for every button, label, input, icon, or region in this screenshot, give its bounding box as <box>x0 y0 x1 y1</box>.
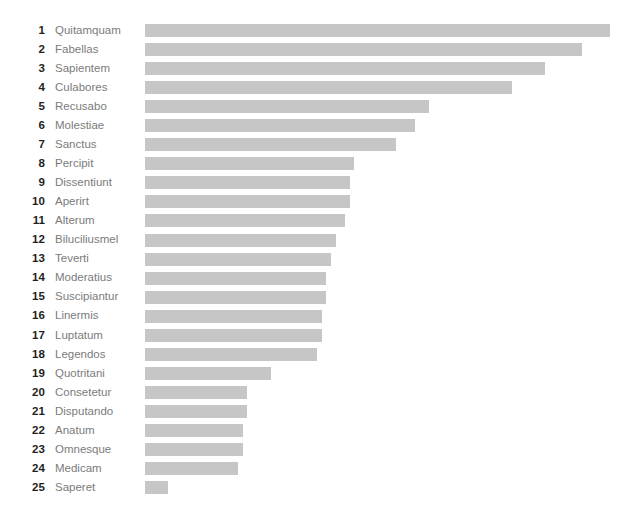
row-rank: 1 <box>0 25 45 37</box>
row-bar <box>145 176 350 189</box>
row-rank: 13 <box>0 253 45 265</box>
bar-chart-rows: 1Quitamquam2Fabellas3Sapientem4Culabores… <box>0 21 628 497</box>
row-category-label: Culabores <box>55 82 145 94</box>
row-bar-track <box>145 459 628 478</box>
row-bar <box>145 424 243 437</box>
bar-chart-row: 25Saperet <box>0 478 628 497</box>
row-rank: 4 <box>0 82 45 94</box>
row-rank: 5 <box>0 101 45 113</box>
bar-chart-row: 20Consetetur <box>0 383 628 402</box>
row-category-label: Luptatum <box>55 330 145 342</box>
row-rank: 9 <box>0 177 45 189</box>
row-bar <box>145 81 512 94</box>
row-rank: 22 <box>0 425 45 437</box>
row-rank: 19 <box>0 368 45 380</box>
row-bar <box>145 195 350 208</box>
row-bar-track <box>145 192 628 211</box>
row-bar <box>145 443 243 456</box>
bar-chart-row: 24Medicam <box>0 459 628 478</box>
row-bar <box>145 272 326 285</box>
row-bar-track <box>145 78 628 97</box>
row-bar <box>145 24 610 37</box>
row-bar-track <box>145 288 628 307</box>
row-bar <box>145 405 247 418</box>
row-rank: 10 <box>0 196 45 208</box>
row-category-label: Omnesque <box>55 444 145 456</box>
row-rank: 21 <box>0 406 45 418</box>
row-bar-track <box>145 231 628 250</box>
row-category-label: Anatum <box>55 425 145 437</box>
row-rank: 24 <box>0 463 45 475</box>
bar-chart-row: 11Alterum <box>0 211 628 230</box>
row-rank: 2 <box>0 44 45 56</box>
row-bar-track <box>145 21 628 40</box>
row-bar-track <box>145 345 628 364</box>
row-bar-track <box>145 402 628 421</box>
bar-chart-row: 15Suscipiantur <box>0 288 628 307</box>
bar-chart-row: 19Quotritani <box>0 364 628 383</box>
row-category-label: Medicam <box>55 463 145 475</box>
row-rank: 23 <box>0 444 45 456</box>
row-category-label: Sapientem <box>55 63 145 75</box>
row-bar-track <box>145 440 628 459</box>
row-category-label: Consetetur <box>55 387 145 399</box>
row-rank: 8 <box>0 158 45 170</box>
bar-chart-row: 16Linermis <box>0 307 628 326</box>
row-bar <box>145 100 429 113</box>
row-category-label: Sanctus <box>55 139 145 151</box>
row-bar <box>145 386 247 399</box>
row-rank: 20 <box>0 387 45 399</box>
row-bar-track <box>145 135 628 154</box>
row-bar <box>145 253 331 266</box>
bar-chart-row: 21Disputando <box>0 402 628 421</box>
row-bar-track <box>145 59 628 78</box>
bar-chart-row: 10Aperirt <box>0 192 628 211</box>
row-bar-track <box>145 421 628 440</box>
row-bar <box>145 329 322 342</box>
bar-chart-row: 5Recusabo <box>0 97 628 116</box>
bar-chart-row: 2Fabellas <box>0 40 628 59</box>
row-rank: 17 <box>0 330 45 342</box>
bar-chart-row: 12Biluciliusmel <box>0 231 628 250</box>
row-rank: 6 <box>0 120 45 132</box>
row-bar-track <box>145 97 628 116</box>
row-category-label: Quotritani <box>55 368 145 380</box>
bar-chart-row: 3Sapientem <box>0 59 628 78</box>
row-bar <box>145 119 415 132</box>
row-bar-track <box>145 364 628 383</box>
row-category-label: Quitamquam <box>55 25 145 37</box>
row-rank: 25 <box>0 482 45 494</box>
row-rank: 18 <box>0 349 45 361</box>
row-bar-track <box>145 478 628 497</box>
row-bar <box>145 462 238 475</box>
bar-chart: 1Quitamquam2Fabellas3Sapientem4Culabores… <box>0 0 628 523</box>
bar-chart-row: 4Culabores <box>0 78 628 97</box>
row-bar <box>145 348 317 361</box>
row-rank: 16 <box>0 310 45 322</box>
row-rank: 12 <box>0 234 45 246</box>
row-category-label: Legendos <box>55 349 145 361</box>
bar-chart-row: 6Molestiae <box>0 116 628 135</box>
row-bar-track <box>145 40 628 59</box>
bar-chart-row: 9Dissentiunt <box>0 173 628 192</box>
bar-chart-row: 23Omnesque <box>0 440 628 459</box>
row-bar-track <box>145 173 628 192</box>
bar-chart-row: 17Luptatum <box>0 326 628 345</box>
row-rank: 15 <box>0 291 45 303</box>
row-bar-track <box>145 307 628 326</box>
row-category-label: Fabellas <box>55 44 145 56</box>
row-bar-track <box>145 250 628 269</box>
row-bar <box>145 62 545 75</box>
bar-chart-row: 1Quitamquam <box>0 21 628 40</box>
row-bar <box>145 310 322 323</box>
row-category-label: Percipit <box>55 158 145 170</box>
row-bar-track <box>145 211 628 230</box>
bar-chart-row: 8Percipit <box>0 154 628 173</box>
row-category-label: Linermis <box>55 310 145 322</box>
row-bar-track <box>145 116 628 135</box>
row-rank: 11 <box>0 215 45 227</box>
row-category-label: Dissentiunt <box>55 177 145 189</box>
bar-chart-row: 7Sanctus <box>0 135 628 154</box>
row-category-label: Biluciliusmel <box>55 234 145 246</box>
bar-chart-row: 13Teverti <box>0 250 628 269</box>
